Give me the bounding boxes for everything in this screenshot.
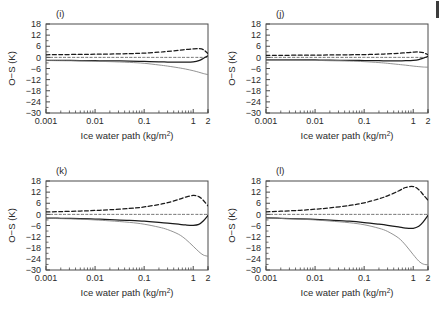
x-tick-label: 0.1 bbox=[138, 116, 151, 126]
panel-label: (l) bbox=[276, 165, 284, 176]
y-tick-label: 12 bbox=[251, 30, 261, 40]
x-tick-label: 1 bbox=[191, 273, 196, 283]
x-tick-label: 0.1 bbox=[358, 116, 371, 126]
data-layer bbox=[266, 186, 428, 264]
y-tick-label: 18 bbox=[31, 19, 41, 29]
y-tick-label: −12 bbox=[246, 75, 261, 85]
series-upper-dashed bbox=[266, 186, 428, 211]
x-tick-label: 1 bbox=[411, 116, 416, 126]
x-axis-title: Ice water path (kg/m2) bbox=[301, 130, 394, 142]
series-mid-solid bbox=[46, 215, 208, 225]
y-tick-label: 6 bbox=[36, 198, 41, 208]
y-tick-label: −6 bbox=[31, 221, 41, 231]
axes-frame bbox=[46, 181, 208, 270]
y-tick-label: 6 bbox=[256, 198, 261, 208]
y-tick-label: −18 bbox=[26, 86, 41, 96]
data-layer bbox=[266, 52, 428, 67]
plot-j: (j)181260−6−12−18−24−300.0010.010.112O−S… bbox=[220, 0, 440, 157]
x-axis-title: Ice water path (kg/m2) bbox=[81, 287, 174, 299]
y-tick-label: −18 bbox=[26, 243, 41, 253]
x-tick-label: 2 bbox=[425, 273, 430, 283]
series-lower-solid bbox=[46, 218, 208, 256]
panel-i: (i)181260−6−12−18−24−300.0010.010.112O−S… bbox=[0, 0, 220, 157]
panel-label: (k) bbox=[56, 165, 67, 176]
y-tick-label: 6 bbox=[256, 41, 261, 51]
series-upper-dashed bbox=[46, 49, 208, 55]
y-tick-label: −12 bbox=[246, 232, 261, 242]
y-tick-label: 0 bbox=[256, 53, 261, 63]
y-tick-label: −18 bbox=[246, 86, 261, 96]
x-tick-label: 0.01 bbox=[306, 273, 324, 283]
x-tick-label: 0.001 bbox=[255, 273, 278, 283]
y-axis-title: O−S (K) bbox=[226, 51, 237, 86]
x-tick-label: 2 bbox=[425, 116, 430, 126]
y-tick-label: 18 bbox=[251, 176, 261, 186]
panel-label: (i) bbox=[56, 8, 64, 19]
y-tick-label: 0 bbox=[256, 210, 261, 220]
y-tick-label: −6 bbox=[251, 221, 261, 231]
y-tick-label: −24 bbox=[26, 254, 41, 264]
y-tick-label: 12 bbox=[31, 30, 41, 40]
x-tick-label: 0.001 bbox=[35, 116, 58, 126]
x-axis-title: Ice water path (kg/m2) bbox=[81, 130, 174, 142]
plot-k: (k)181260−6−12−18−24−300.0010.010.112O−S… bbox=[0, 157, 220, 313]
y-tick-label: 0 bbox=[36, 53, 41, 63]
x-tick-label: 0.001 bbox=[255, 116, 278, 126]
panel-l: (l)181260−6−12−18−24−300.0010.010.112O−S… bbox=[220, 157, 441, 313]
y-tick-label: −18 bbox=[246, 243, 261, 253]
y-axis-title: O−S (K) bbox=[6, 208, 17, 243]
y-tick-label: −6 bbox=[31, 64, 41, 74]
page-edge-mark bbox=[436, 1, 439, 18]
x-tick-label: 1 bbox=[411, 273, 416, 283]
figure-panel-grid: (i)181260−6−12−18−24−300.0010.010.112O−S… bbox=[0, 0, 441, 313]
series-mid-solid bbox=[266, 215, 428, 228]
y-tick-label: 12 bbox=[31, 187, 41, 197]
x-tick-label: 2 bbox=[205, 116, 210, 126]
y-tick-label: −24 bbox=[246, 97, 261, 107]
y-tick-label: 12 bbox=[251, 187, 261, 197]
axes-frame bbox=[266, 181, 428, 270]
series-lower-solid bbox=[266, 218, 428, 265]
data-layer bbox=[46, 195, 208, 256]
x-tick-label: 0.01 bbox=[306, 116, 324, 126]
panel-j: (j)181260−6−12−18−24−300.0010.010.112O−S… bbox=[220, 0, 441, 157]
y-tick-label: −24 bbox=[246, 254, 261, 264]
x-tick-label: 0.1 bbox=[138, 273, 151, 283]
y-axis-title: O−S (K) bbox=[6, 51, 17, 86]
x-tick-label: 0.1 bbox=[358, 273, 371, 283]
axes-frame bbox=[266, 24, 428, 113]
x-tick-label: 0.01 bbox=[86, 116, 104, 126]
y-tick-label: −12 bbox=[26, 232, 41, 242]
series-upper-dashed bbox=[266, 52, 428, 55]
y-tick-label: −24 bbox=[26, 97, 41, 107]
series-upper-dashed bbox=[46, 195, 208, 212]
y-tick-label: −12 bbox=[26, 75, 41, 85]
y-tick-label: −6 bbox=[251, 64, 261, 74]
data-layer bbox=[46, 49, 208, 75]
x-tick-label: 1 bbox=[191, 116, 196, 126]
panel-label: (j) bbox=[276, 8, 284, 19]
x-axis-title: Ice water path (kg/m2) bbox=[301, 287, 394, 299]
y-tick-label: 0 bbox=[36, 210, 41, 220]
y-tick-label: 18 bbox=[31, 176, 41, 186]
y-axis-title: O−S (K) bbox=[226, 208, 237, 243]
plot-l: (l)181260−6−12−18−24−300.0010.010.112O−S… bbox=[220, 157, 440, 313]
plot-i: (i)181260−6−12−18−24−300.0010.010.112O−S… bbox=[0, 0, 220, 157]
y-tick-label: 6 bbox=[36, 41, 41, 51]
x-tick-label: 2 bbox=[205, 273, 210, 283]
y-tick-label: 18 bbox=[251, 19, 261, 29]
series-mid-solid bbox=[46, 56, 208, 63]
x-tick-label: 0.01 bbox=[86, 273, 104, 283]
panel-k: (k)181260−6−12−18−24−300.0010.010.112O−S… bbox=[0, 157, 220, 313]
x-tick-label: 0.001 bbox=[35, 273, 58, 283]
